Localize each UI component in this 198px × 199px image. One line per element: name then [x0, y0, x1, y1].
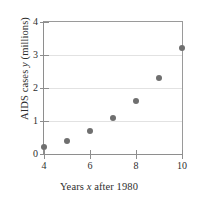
y-axis-title-variable: y	[19, 62, 30, 67]
scatter-chart-figure: AIDS cases y (millions) 0123446810 Years…	[0, 0, 198, 199]
y-axis-tick-label: 3	[33, 50, 38, 60]
x-axis-tick	[182, 150, 183, 159]
y-axis-tick-label: 2	[33, 83, 38, 93]
data-point	[179, 45, 185, 51]
x-axis-tick	[136, 150, 137, 159]
y-axis-tick-label: 0	[33, 149, 38, 159]
y-axis-tick	[40, 121, 49, 122]
gridline	[44, 55, 182, 56]
y-axis-tick	[40, 55, 49, 56]
x-axis-title-suffix: after 1980	[91, 181, 138, 192]
x-axis-title-prefix: Years	[60, 181, 87, 192]
data-point	[41, 144, 47, 150]
x-axis-tick-label: 6	[88, 161, 93, 171]
y-axis-title-suffix: (millions)	[19, 17, 30, 62]
gridline	[44, 88, 182, 89]
x-axis-tick	[90, 150, 91, 159]
gridline	[44, 121, 182, 122]
data-point	[156, 75, 162, 81]
x-axis-tick-label: 8	[134, 161, 139, 171]
x-axis-tick	[44, 150, 45, 159]
y-axis-tick	[40, 88, 49, 89]
data-point	[87, 128, 93, 134]
data-point	[133, 98, 139, 104]
y-axis-tick-label: 1	[33, 116, 38, 126]
plot-area: 0123446810	[43, 21, 183, 155]
x-axis-tick-label: 4	[42, 161, 47, 171]
y-axis-tick	[40, 22, 49, 23]
y-axis-title-prefix: AIDS cases	[19, 67, 30, 120]
x-axis-tick-label: 10	[177, 161, 187, 171]
data-point	[64, 138, 70, 144]
y-axis-title: AIDS cases y (millions)	[19, 0, 30, 144]
y-axis-tick-label: 4	[33, 17, 38, 27]
x-axis-title: Years x after 1980	[0, 181, 198, 192]
data-point	[110, 115, 116, 121]
